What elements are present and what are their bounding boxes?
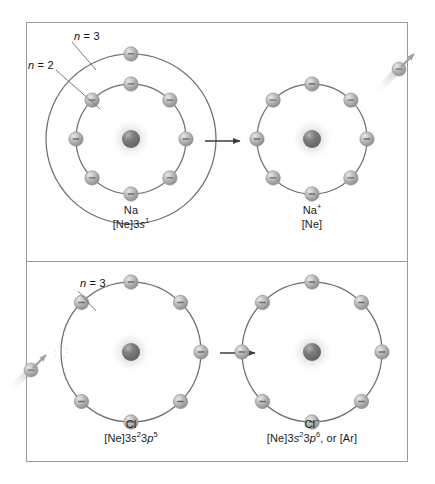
- na-configuration: [Ne]3s1: [81, 217, 181, 231]
- atom-artwork: [0, 0, 435, 484]
- na-ion-configuration: [Ne]: [262, 217, 362, 231]
- na-nucleus: [122, 130, 140, 148]
- ion-formation-figure: n = 3 n = 2 Na [Ne]3s1 Na+ [Ne] n = 3 Cl…: [0, 0, 435, 484]
- na-ion-diagram: [250, 77, 374, 201]
- na-ion-caption: Na+ [Ne]: [262, 203, 362, 231]
- cl-ion-nucleus: [303, 343, 321, 361]
- na-atom-diagram: [46, 42, 216, 224]
- cl-nucleus: [122, 343, 140, 361]
- cl-ion-diagram: [235, 275, 389, 429]
- na-valence-electron: [124, 47, 138, 61]
- escaping-electron-arrow: [401, 54, 414, 67]
- na-n3-leader: [72, 42, 96, 70]
- cl-ion-caption: Cl− [Ne]3s23p6, or [Ar]: [252, 417, 372, 445]
- na-ion-symbol: Na+: [262, 203, 362, 217]
- escaping-electron-group: [378, 54, 414, 90]
- na-shell-label-n3: n = 3: [74, 30, 100, 42]
- na-shell-label-n2: n = 2: [28, 59, 54, 71]
- cl-ion-configuration: [Ne]3s23p6, or [Ar]: [252, 431, 372, 445]
- cl-shell-label-n3: n = 3: [80, 277, 106, 289]
- cl-configuration: [Ne]3s23p5: [81, 431, 181, 445]
- cl-atom-diagram: [55, 275, 209, 429]
- cl-caption: Cl [Ne]3s23p5: [81, 417, 181, 445]
- incoming-electron-arrow: [33, 355, 46, 368]
- cl-ion-symbol: Cl−: [252, 417, 372, 431]
- na-caption: Na [Ne]3s1: [81, 203, 181, 231]
- cl-symbol: Cl: [81, 417, 181, 431]
- na-ion-nucleus: [303, 130, 321, 148]
- na-symbol: Na: [81, 203, 181, 217]
- incoming-electron-group: [12, 355, 46, 387]
